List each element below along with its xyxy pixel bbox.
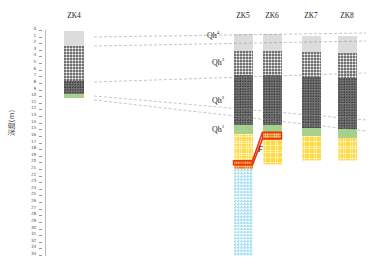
depth-tick-label: 23 <box>31 178 36 184</box>
lithology-layer-orange-conglomerate <box>234 161 253 169</box>
depth-tick-label: 8 <box>33 79 36 85</box>
lithology-layer-green-mudstone <box>263 125 282 132</box>
depth-tick-label: 22 <box>31 172 36 178</box>
depth-tick-label: 34 <box>31 251 36 257</box>
lithology-layer-dark-gray-clay <box>234 75 253 125</box>
depth-tick-label: 20 <box>31 158 36 164</box>
depth-tick-label: 30 <box>31 225 36 231</box>
depth-tick: 21 <box>0 167 46 173</box>
depth-tick-mark <box>39 215 42 216</box>
lithology-layer-light-gray-silt <box>234 34 253 51</box>
depth-tick: 31 <box>0 233 46 239</box>
strat-label-base: Qh <box>212 96 222 105</box>
lithology-layer-yellow-sandstone <box>263 139 282 165</box>
depth-tick: 5 <box>0 61 46 67</box>
lithology-layer-dark-gray-clay <box>64 81 84 94</box>
depth-tick: 28 <box>0 213 46 219</box>
depth-tick: 24 <box>0 187 46 193</box>
depth-tick-mark <box>39 109 42 110</box>
depth-tick-mark <box>39 162 42 163</box>
borehole-column-zk7[interactable]: ZK7 <box>302 36 321 160</box>
depth-tick: 2 <box>0 41 46 47</box>
depth-tick: 9 <box>0 88 46 94</box>
depth-tick-label: 17 <box>31 139 36 145</box>
borehole-label-zk8: ZK8 <box>340 11 354 20</box>
borehole-cross-section-figure: 深度(m) 0123456789101112131415161718192021… <box>0 0 371 272</box>
depth-tick-label: 9 <box>33 86 36 92</box>
depth-tick: 18 <box>0 147 46 153</box>
depth-tick-label: 3 <box>33 46 36 52</box>
depth-tick-label: 11 <box>31 99 36 105</box>
depth-tick-mark <box>39 229 42 230</box>
depth-tick-label: 28 <box>31 211 36 217</box>
depth-tick: 15 <box>0 127 46 133</box>
depth-tick-mark <box>39 43 42 44</box>
lithology-layer-green-mudstone <box>64 94 84 99</box>
borehole-column-zk6[interactable]: ZK6 <box>263 34 282 164</box>
depth-tick: 16 <box>0 134 46 140</box>
depth-tick: 12 <box>0 107 46 113</box>
depth-tick-mark <box>39 182 42 183</box>
depth-tick-label: 26 <box>31 198 36 204</box>
depth-tick: 29 <box>0 220 46 226</box>
depth-tick-mark <box>39 169 42 170</box>
borehole-label-zk7: ZK7 <box>304 11 318 20</box>
lithology-layer-green-mudstone <box>234 125 253 134</box>
depth-tick-mark <box>39 195 42 196</box>
strat-label-qh4: Qh4 <box>207 30 219 40</box>
depth-tick-mark <box>39 83 42 84</box>
borehole-column-zk4[interactable]: ZK4 <box>64 31 84 99</box>
depth-tick: 8 <box>0 81 46 87</box>
strat-label-qh3: Qh3 <box>212 57 224 67</box>
depth-tick-label: 1 <box>33 33 36 39</box>
depth-tick: 7 <box>0 74 46 80</box>
depth-tick: 17 <box>0 141 46 147</box>
lithology-layer-light-gray-silt <box>263 34 282 51</box>
depth-tick: 14 <box>0 121 46 127</box>
depth-tick-label: 5 <box>33 59 36 65</box>
depth-tick-label: 4 <box>33 52 36 58</box>
lithology-layer-dark-gray-clay <box>302 77 321 128</box>
depth-tick-mark <box>39 76 42 77</box>
borehole-column-zk5[interactable]: ZK5 <box>234 34 253 256</box>
strat-label-qh1: Qh1 <box>212 124 224 134</box>
depth-tick-label: 21 <box>31 165 36 171</box>
depth-tick-label: 33 <box>31 244 36 250</box>
depth-tick: 0 <box>0 28 46 34</box>
lithology-layer-light-gray-silt <box>64 31 84 46</box>
borehole-label-zk5: ZK5 <box>236 11 250 20</box>
depth-tick-label: 12 <box>31 105 36 111</box>
depth-tick: 27 <box>0 207 46 213</box>
correlation-line-Qh2-base <box>94 73 366 82</box>
depth-tick-label: 0 <box>33 26 36 32</box>
fault-label: F <box>258 145 263 154</box>
depth-tick-mark <box>39 90 42 91</box>
strat-label-qh2: Qh2 <box>212 95 224 105</box>
depth-tick-label: 29 <box>31 218 36 224</box>
depth-tick: 11 <box>0 101 46 107</box>
correlation-line-Qh1-base <box>94 96 366 120</box>
depth-tick-mark <box>39 202 42 203</box>
depth-tick: 33 <box>0 246 46 252</box>
depth-axis: 深度(m) 0123456789101112131415161718192021… <box>0 0 50 272</box>
depth-tick-label: 27 <box>31 205 36 211</box>
correlation-lines <box>94 33 366 131</box>
depth-tick: 23 <box>0 180 46 186</box>
depth-tick-mark <box>39 222 42 223</box>
depth-tick-label: 6 <box>33 66 36 72</box>
depth-tick-label: 14 <box>31 119 36 125</box>
depth-tick-label: 15 <box>31 125 36 131</box>
depth-tick: 4 <box>0 54 46 60</box>
depth-tick-mark <box>39 156 42 157</box>
depth-tick-mark <box>39 103 42 104</box>
strat-label-base: Qh <box>207 31 217 40</box>
depth-tick-label: 32 <box>31 238 36 244</box>
depth-tick-label: 31 <box>31 231 36 237</box>
strat-label-base: Qh <box>212 125 222 134</box>
lithology-layer-orange-conglomerate <box>263 132 282 139</box>
strat-label-superscript: 3 <box>222 57 225 62</box>
depth-tick-mark <box>39 209 42 210</box>
borehole-column-zk8[interactable]: ZK8 <box>338 36 357 160</box>
lithology-layer-yellow-sandstone <box>338 138 357 161</box>
depth-tick-label: 24 <box>31 185 36 191</box>
